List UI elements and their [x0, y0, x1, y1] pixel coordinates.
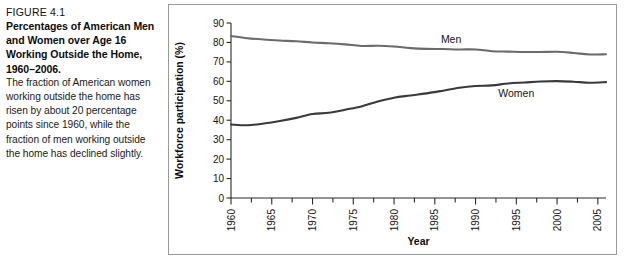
x-tick-label: 2005 — [592, 209, 603, 232]
y-tick-label: 70 — [213, 56, 225, 67]
chart-series — [231, 36, 606, 125]
x-tick-label: 1970 — [307, 209, 318, 232]
y-tick-label: 10 — [213, 173, 225, 184]
y-axis-ticks: 0102030405060708090 — [213, 18, 231, 204]
series-label-women: Women — [498, 87, 534, 99]
y-tick-label: 90 — [213, 18, 225, 29]
y-tick-label: 40 — [213, 115, 225, 126]
x-axis-ticks: 1960196519701975198019851990199520002005 — [226, 198, 604, 231]
series-label-men: Men — [441, 33, 462, 45]
figure-label: FIGURE 4.1 — [6, 6, 156, 18]
y-tick-label: 60 — [213, 76, 225, 87]
x-tick-label: 1965 — [266, 209, 277, 232]
x-tick-label: 1985 — [429, 209, 440, 232]
y-tick-label: 30 — [213, 134, 225, 145]
x-axis-title: Year — [407, 235, 429, 247]
x-tick-label: 2000 — [552, 209, 563, 232]
x-tick-label: 1990 — [470, 209, 481, 232]
y-tick-label: 0 — [218, 193, 224, 204]
figure-description: The fraction of American women working o… — [6, 76, 156, 161]
x-tick-label: 1980 — [389, 209, 400, 232]
x-tick-label: 1995 — [511, 209, 522, 232]
y-axis-title: Workforce participation (%) — [173, 42, 185, 179]
y-tick-label: 80 — [213, 37, 225, 48]
figure-title: Percentages of American Men and Women ov… — [6, 19, 156, 76]
x-tick-label: 1960 — [226, 209, 237, 232]
figure-caption: FIGURE 4.1 Percentages of American Men a… — [6, 6, 156, 161]
workforce-participation-line-chart: 0102030405060708090 19601965197019751980… — [169, 5, 616, 254]
figure-root: FIGURE 4.1 Percentages of American Men a… — [0, 0, 625, 267]
series-line-men — [231, 36, 606, 55]
y-tick-label: 20 — [213, 154, 225, 165]
x-tick-label: 1975 — [348, 209, 359, 232]
chart-frame: 0102030405060708090 19601965197019751980… — [168, 4, 617, 255]
y-tick-label: 50 — [213, 95, 225, 106]
series-line-women — [231, 81, 606, 125]
